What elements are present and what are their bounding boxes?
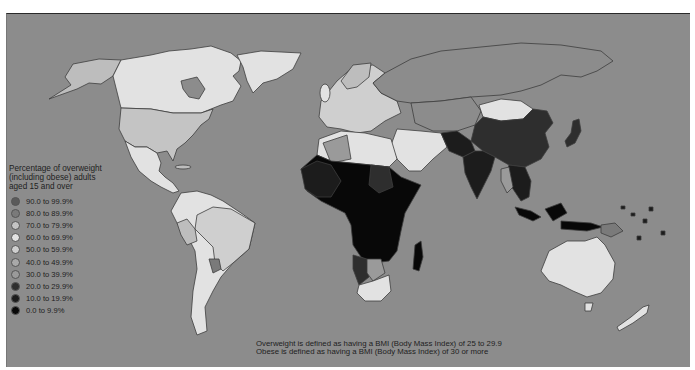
legend-swatch-icon [11, 197, 20, 206]
legend-swatch-icon [11, 209, 20, 218]
legend-swatch-icon [11, 245, 20, 254]
region-uk[interactable] [320, 84, 330, 102]
legend-swatch-icon [11, 306, 20, 315]
legend-item: 20.0 to 29.9% [9, 280, 139, 292]
region-tasmania[interactable] [585, 303, 593, 311]
region-greenland[interactable] [237, 51, 301, 93]
region-indonesia[interactable] [515, 203, 603, 231]
legend-item: 70.0 to 79.9% [9, 219, 139, 231]
legend-label: 50.0 to 59.9% [26, 245, 73, 254]
region-south-asia-west[interactable] [441, 131, 475, 157]
region-australia[interactable] [541, 237, 615, 297]
legend-label: 40.0 to 49.9% [26, 258, 73, 267]
region-cuba[interactable] [175, 165, 191, 169]
region-pacific-islands[interactable] [621, 206, 665, 240]
legend-items: 90.0 to 99.9% 80.0 to 89.9% 70.0 to 79.9… [9, 195, 139, 317]
legend-title-line: Percentage of overweight [9, 164, 139, 173]
region-alaska[interactable] [49, 59, 121, 99]
legend-title: Percentage of overweight (including obes… [9, 164, 139, 191]
legend-item: 40.0 to 49.9% [9, 256, 139, 268]
legend-label: 60.0 to 69.9% [26, 233, 73, 242]
region-india[interactable] [463, 151, 495, 199]
legend-swatch-icon [11, 221, 20, 230]
legend-label: 90.0 to 99.9% [26, 197, 73, 206]
legend-swatch-icon [11, 294, 20, 303]
legend-item: 30.0 to 39.9% [9, 268, 139, 280]
bmi-definition-note: Overweight is defined as having a BMI (B… [256, 340, 502, 357]
legend-item: 90.0 to 99.9% [9, 195, 139, 207]
region-middle-east[interactable] [391, 129, 447, 171]
map-legend: Percentage of overweight (including obes… [9, 164, 139, 317]
legend-title-line: aged 15 and over [9, 182, 139, 191]
legend-swatch-icon [11, 270, 20, 279]
legend-label: 0.0 to 9.9% [26, 306, 64, 315]
region-central-asia[interactable] [411, 97, 481, 131]
legend-swatch-icon [11, 233, 20, 242]
region-canada[interactable] [113, 46, 241, 113]
legend-label: 20.0 to 29.9% [26, 282, 73, 291]
legend-label: 30.0 to 39.9% [26, 270, 73, 279]
legend-title-line: (including obese) adults [9, 173, 139, 182]
legend-swatch-icon [11, 282, 20, 291]
legend-item: 60.0 to 69.9% [9, 232, 139, 244]
legend-item: 10.0 to 19.9% [9, 293, 139, 305]
region-japan[interactable] [565, 119, 581, 147]
region-new-zealand[interactable] [617, 305, 649, 331]
region-russia[interactable] [373, 43, 613, 103]
legend-item: 80.0 to 89.9% [9, 207, 139, 219]
region-madagascar[interactable] [413, 241, 423, 271]
legend-item: 0.0 to 9.9% [9, 305, 139, 317]
obese-definition: Obese is defined as having a BMI (Body M… [256, 348, 502, 356]
legend-item: 50.0 to 59.9% [9, 244, 139, 256]
legend-label: 70.0 to 79.9% [26, 221, 73, 230]
region-papua-new-guinea[interactable] [601, 223, 623, 237]
legend-label: 80.0 to 89.9% [26, 209, 73, 218]
legend-label: 10.0 to 19.9% [26, 294, 73, 303]
map-frame: Percentage of overweight (including obes… [6, 13, 690, 367]
legend-swatch-icon [11, 258, 20, 267]
